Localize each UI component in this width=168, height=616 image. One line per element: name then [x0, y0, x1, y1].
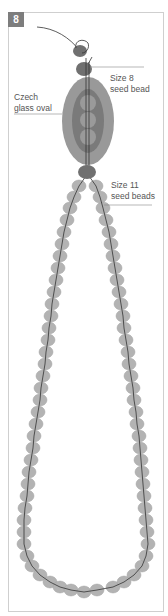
label-line: Czech — [14, 92, 52, 103]
thread-tail — [37, 27, 79, 50]
knot-bead — [73, 45, 87, 57]
bottom-seed-bead — [78, 165, 96, 179]
oval-dimple — [80, 95, 96, 111]
oval-dimple — [80, 112, 96, 128]
label-line: Size 11 — [111, 180, 155, 191]
label-line: seed bead — [110, 84, 150, 95]
label-line: seed beads — [111, 191, 155, 202]
label-line: Size 8 — [110, 73, 150, 84]
oval-dimple — [80, 129, 96, 145]
label-line: glass oval — [14, 103, 52, 114]
label-czech-glass-oval: Czech glass oval — [14, 92, 52, 114]
size-11-seed-beads — [17, 180, 155, 598]
size-8-seed-bead — [76, 62, 92, 76]
label-size-11: Size 11 seed beads — [111, 180, 155, 202]
label-size-8: Size 8 seed bead — [110, 73, 150, 95]
